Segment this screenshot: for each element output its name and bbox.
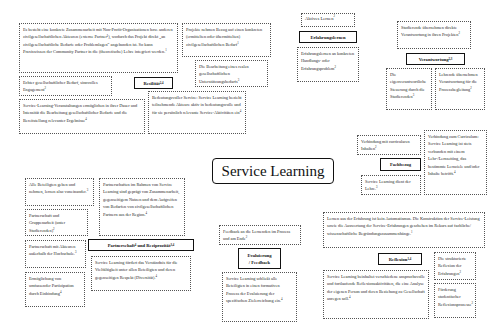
verantwortung-item-1: Studierende übernehmen direkte Verantwor… [397, 21, 471, 49]
reflexion-item-1: Lernen aus der Erfahrung ist kein Automa… [323, 212, 485, 248]
fachbezug-item-2: Service Learning dient der Lehre.3 [361, 175, 421, 195]
fachbezug-label: Fachbezug [380, 158, 421, 171]
partnerschaft-item-2: Partnerschaft und Gruppenarbeit (unter S… [25, 209, 88, 236]
verantwortung-label: Verantwortung2,3 [406, 53, 465, 65]
evaluierung-item-2: Service Learning schließt alle Beteiligt… [222, 272, 297, 322]
erfahrungslernen-label: Erfahrungslernen [299, 31, 357, 43]
reflexion-item-3: Service Learning beinhaltet verschiedene… [323, 270, 429, 319]
verantwortung-item-3: Lehrende übernehmen Verantwortung für di… [435, 68, 485, 110]
evaluierung-label: Evaluierung / Feedback [238, 248, 281, 269]
resilitaet-item-3: Die Bearbeitung eines realen gesellschaf… [195, 60, 268, 87]
partnerschaft-item-6: Service Learning fördert das Verständnis… [91, 256, 191, 291]
fachbezug-item-3: Verbindung zum Curriculum: Service Learn… [424, 130, 487, 195]
reflexion-item-4: Förderung studentischer Reflexionsprozes… [434, 283, 476, 318]
resilitaet-label: Resilität2,4 [134, 77, 173, 89]
evaluierung-item-1: Feedback an die Lernenden im Prozess und… [219, 225, 301, 245]
reflexion-item-2: Die strukturierte Reflexion der Erfahrun… [434, 252, 476, 280]
resilitaet-item-2: Projekte nehmen Bezug auf einen konkrete… [182, 23, 271, 57]
reflexion-label: Reflexion1,4 [378, 253, 422, 265]
partnerschaft-item-1: Alle Beteiligten geben und nehmen, lerne… [25, 178, 94, 206]
fachbezug-item-1: Verbindung mit curricularen Inhalten2 [357, 135, 421, 155]
verantwortung-item-2: Die eigenverantwortliche Steuerung durch… [386, 68, 432, 110]
center-title: Service Learning [212, 158, 334, 184]
center-title-text: Service Learning [222, 163, 325, 180]
erfahrungslernen-item-1: Aktives Lernen2 [301, 13, 355, 27]
resilitaet-item-4: Echter gesellschaftlicher Bedarf, sinnvo… [19, 76, 112, 96]
partnerschaft-item-3: Partnerschaft mit Akteuren außerhalb der… [25, 240, 86, 268]
resilitaet-item-1: Es besteht eine konkrete Zusammenarbeit … [19, 23, 178, 73]
partnerschaft-item-5: Partnerschaften im Rahmen von Service Le… [99, 178, 185, 236]
erfahrungslernen-item-2: Erfahrungslernen an konkreten Handlungs-… [297, 47, 359, 82]
resilitaet-item-6: Bedeutungsvoller Service: Service Learni… [148, 91, 246, 134]
resilitaet-item-5: Service-Learning-Veranstaltungen ermögli… [19, 99, 145, 134]
partnerschaft-item-4: Ermöglichung von umfassender Partizipati… [25, 272, 85, 307]
partnerschaft-label: Partnerschaft4 und Reziprozität3,4 [88, 239, 194, 251]
